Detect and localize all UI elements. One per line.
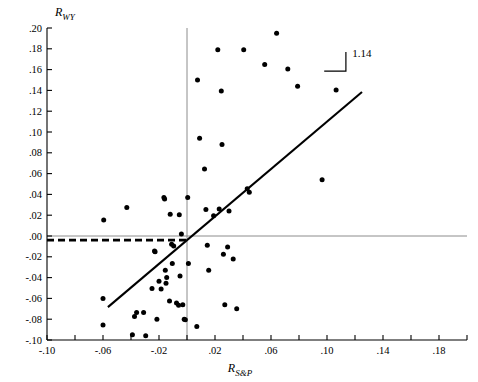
data-point	[227, 209, 232, 214]
y-axis-tick-label: .08	[29, 147, 42, 158]
y-axis-tick-label: .18	[29, 43, 42, 54]
data-point	[183, 317, 188, 322]
data-point	[334, 87, 339, 92]
data-point	[285, 67, 290, 72]
x-axis-tick-label: .10	[320, 345, 333, 356]
data-point	[274, 31, 279, 36]
x-axis-tick-label: .18	[432, 345, 445, 356]
data-point	[194, 324, 199, 329]
data-point	[168, 212, 173, 217]
data-point	[143, 333, 148, 338]
data-point	[231, 256, 236, 261]
scatter-plot-figure: -.10-.06-.02.02.06.10.14.18-.10-.08-.06-…	[0, 0, 478, 382]
y-axis-tick-label: -.04	[25, 272, 42, 283]
slope-label: 1.14	[352, 47, 372, 59]
data-point	[150, 286, 155, 291]
data-point	[162, 197, 167, 202]
data-point	[197, 136, 202, 141]
data-point	[215, 47, 220, 52]
data-point	[180, 302, 185, 307]
x-axis-tick-label: -.02	[151, 345, 168, 356]
data-point	[295, 84, 300, 89]
x-axis-tick-label: -.10	[39, 345, 56, 356]
data-point	[195, 78, 200, 83]
y-axis-tick-label: -.08	[25, 314, 42, 325]
x-axis-tick-label: .14	[376, 345, 390, 356]
y-axis-tick-label: .20	[29, 23, 42, 34]
data-point	[234, 306, 239, 311]
x-axis-tick-label: .06	[264, 345, 277, 356]
data-point	[163, 268, 168, 273]
data-point	[101, 322, 106, 327]
x-axis-tick-label: .02	[208, 345, 221, 356]
data-point	[157, 279, 162, 284]
data-points-group	[101, 31, 339, 339]
regression-line	[108, 92, 362, 307]
data-point	[202, 166, 207, 171]
data-point	[203, 207, 208, 212]
data-point	[164, 275, 169, 280]
chart-canvas: -.10-.06-.02.02.06.10.14.18-.10-.08-.06-…	[0, 0, 478, 382]
data-point	[101, 217, 106, 222]
data-point	[221, 252, 226, 257]
data-point	[211, 213, 216, 218]
data-point	[167, 299, 172, 304]
data-point	[185, 195, 190, 200]
y-axis-tick-label: .12	[29, 106, 42, 117]
data-point	[220, 142, 225, 147]
data-point	[179, 231, 184, 236]
data-point	[164, 281, 169, 286]
y-axis-tick-label: .14	[29, 85, 43, 96]
data-point	[222, 302, 227, 307]
data-point	[205, 243, 210, 248]
data-point	[134, 310, 139, 315]
data-point	[170, 261, 175, 266]
data-point	[101, 296, 106, 301]
data-point	[262, 62, 267, 67]
y-axis-tick-label: .04	[29, 189, 43, 200]
data-point	[176, 303, 181, 308]
x-axis-title: RS&P	[227, 361, 253, 378]
slope-triangle	[324, 52, 346, 71]
x-axis-tick-label: -.06	[95, 345, 112, 356]
y-axis-tick-label: -.02	[25, 251, 42, 262]
data-point	[124, 205, 129, 210]
y-axis-tick-label: -.10	[25, 335, 42, 346]
data-point	[178, 274, 183, 279]
data-point	[159, 287, 164, 292]
data-point	[241, 47, 246, 52]
y-axis-tick-label: .02	[29, 210, 42, 221]
data-point	[320, 177, 325, 182]
data-point	[153, 249, 158, 254]
data-point	[171, 243, 176, 248]
data-point	[141, 310, 146, 315]
data-point	[225, 244, 230, 249]
y-axis-tick-label: .00	[29, 231, 42, 242]
data-point	[177, 212, 182, 217]
data-point	[217, 206, 222, 211]
y-axis-tick-label: -.06	[25, 293, 42, 304]
data-point	[154, 317, 159, 322]
y-axis-title: RWY	[54, 5, 76, 22]
data-point	[186, 261, 191, 266]
y-axis-tick-label: .06	[29, 168, 42, 179]
y-axis-tick-label: .16	[29, 64, 42, 75]
data-point	[247, 190, 252, 195]
data-point	[206, 268, 211, 273]
data-point	[219, 88, 224, 93]
y-axis-tick-label: .10	[29, 127, 42, 138]
